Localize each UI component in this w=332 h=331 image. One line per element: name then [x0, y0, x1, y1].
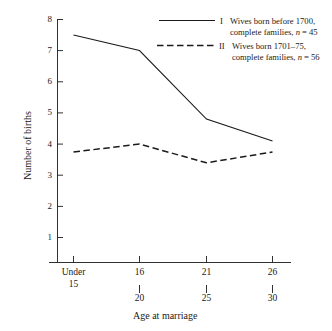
x-tick-label-21: 21: [177, 268, 237, 278]
y-tick-label-6: 6: [38, 77, 52, 86]
y-tick-label-5: 5: [38, 108, 52, 117]
x-tick-label-26: 26: [243, 268, 303, 278]
x-tick-label-30: 30: [243, 294, 303, 304]
legend-entry-1-n-value: = 45: [300, 27, 318, 37]
legend-entry-2-line2-pre: complete families,: [232, 52, 298, 62]
y-axis-ticks: [58, 20, 64, 238]
legend-entry-1-line2-pre: complete families,: [230, 27, 296, 37]
x-tick-label-16: 16: [110, 268, 170, 278]
y-tick-label-4: 4: [38, 140, 52, 149]
y-tick-label-3: 3: [38, 171, 52, 180]
legend-entry-1-line1: Wives born before 1700,: [230, 16, 315, 27]
x-tick-label-15: 15: [44, 280, 104, 290]
x-axis-ticks: [74, 256, 273, 263]
y-tick-label-2: 2: [38, 202, 52, 211]
series-2-line: [74, 144, 273, 163]
x-tick-label-25: 25: [177, 294, 237, 304]
legend-entry-2-line1: Wives born 1701–75,: [232, 41, 306, 52]
y-axis-title: Number of births: [22, 111, 33, 180]
legend-entry-1-line2: complete families, n = 45: [230, 27, 318, 38]
x-axis-title: Age at marriage: [133, 311, 197, 321]
legend-entry-2-n-value: = 56: [302, 52, 320, 62]
x-tick-label-20: 20: [110, 294, 170, 304]
y-tick-label-8: 8: [38, 15, 52, 24]
x-range-connectors: [140, 285, 273, 293]
chart-figure: 8 7 6 5 4 3 2 1 Number of births Under 1…: [0, 0, 332, 331]
legend-entry-1-marker: I: [220, 16, 223, 27]
y-tick-label-1: 1: [38, 233, 52, 242]
x-tick-label-under: Under: [44, 268, 104, 278]
y-tick-label-7: 7: [38, 46, 52, 55]
legend-entry-2-line2: complete families, n = 56: [232, 52, 320, 63]
legend-entry-2-marker: II: [219, 41, 225, 52]
